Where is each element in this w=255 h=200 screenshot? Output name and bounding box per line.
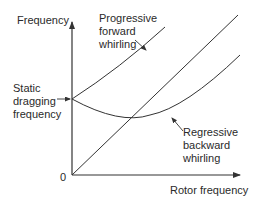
backward-label-2: backward	[183, 139, 230, 152]
origin-label: 0	[60, 171, 66, 184]
forward-label-3: whirling	[99, 38, 136, 51]
forward-label-1: Progressive	[99, 12, 157, 25]
backward-whirling-curve	[72, 55, 240, 118]
x-axis-label: Rotor frequency	[170, 184, 248, 197]
static-label-2: dragging	[13, 95, 56, 108]
backward-label-3: whirling	[183, 152, 220, 165]
backward-pointer-arrow	[172, 118, 183, 131]
static-label-1: Static	[13, 82, 41, 95]
static-label-3: frequency	[13, 108, 61, 121]
y-axis-label: Frequency	[17, 14, 69, 27]
forward-label-2: forward	[99, 25, 136, 38]
backward-label-1: Regressive	[183, 126, 238, 139]
